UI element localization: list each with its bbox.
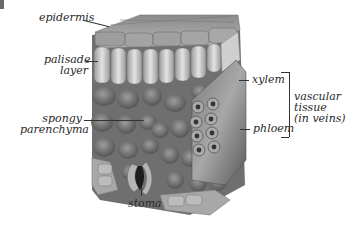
epidermis-layer	[95, 15, 240, 48]
leader-spongy	[84, 120, 144, 121]
bracket-top	[281, 72, 289, 73]
bracket-bottom	[281, 137, 289, 138]
leader-phloem	[240, 129, 250, 130]
leader-xylem	[239, 80, 249, 81]
bracket-vertical	[289, 72, 290, 137]
label-palisade-line2: layer	[44, 65, 88, 76]
leader-palisade	[86, 61, 98, 62]
leader-stoma	[141, 186, 142, 196]
label-stoma: stoma	[128, 198, 162, 209]
label-spongy-line2: parenchyma	[20, 124, 82, 135]
label-vascular-line3: (in veins)	[294, 113, 346, 124]
label-xylem: xylem	[252, 74, 285, 85]
